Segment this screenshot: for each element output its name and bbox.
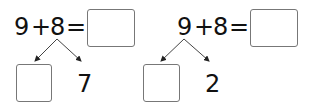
equals-sign: = bbox=[229, 15, 249, 39]
operand-a: 9 bbox=[14, 15, 29, 39]
split-right-value: 7 bbox=[77, 72, 92, 96]
plus-sign: + bbox=[194, 15, 214, 39]
operand-b: 8 bbox=[213, 15, 228, 39]
split-right-value: 2 bbox=[205, 72, 220, 96]
plus-sign: + bbox=[31, 15, 51, 39]
split-left-box[interactable] bbox=[16, 64, 52, 102]
operand-a: 9 bbox=[177, 15, 192, 39]
split-left-box[interactable] bbox=[143, 64, 180, 102]
answer-box[interactable] bbox=[87, 9, 135, 47]
operand-b: 8 bbox=[50, 15, 65, 39]
answer-box[interactable] bbox=[250, 9, 298, 47]
equals-sign: = bbox=[66, 15, 86, 39]
